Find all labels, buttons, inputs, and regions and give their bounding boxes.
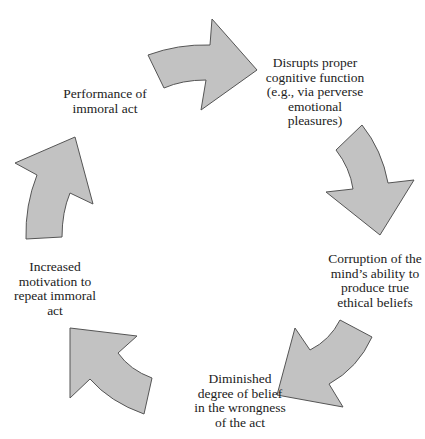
node-performance-of-immoral-act: Performance of immoral act [52,87,158,116]
arrow-icon [148,19,257,110]
arrow-icon [326,125,414,235]
node-diminished-belief: Diminished degree of belief in the wrong… [178,372,302,430]
arrow-icon [15,137,93,239]
node-increased-motivation: Increased motivation to repeat immoral a… [0,260,110,318]
node-disrupts-cognitive-function: Disrupts proper cognitive function (e.g.… [255,56,375,129]
arrow-icon [70,328,152,414]
node-corruption-of-mind: Corruption of the mind’s ability to prod… [320,252,425,310]
